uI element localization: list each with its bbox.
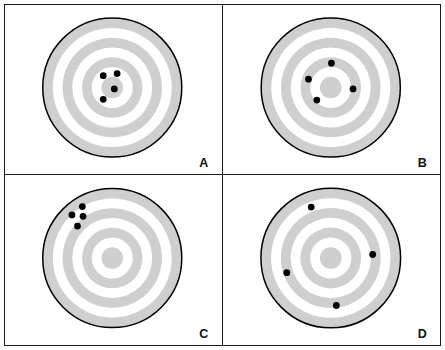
- shot-dot: [305, 76, 312, 83]
- shot-dot: [307, 204, 314, 211]
- panel-label-a: A: [199, 157, 208, 170]
- panel-grid: A B C D: [4, 4, 441, 346]
- shot-dot: [349, 86, 356, 93]
- shot-dot: [79, 203, 86, 210]
- ring-band: [101, 247, 123, 269]
- shot-dot: [283, 269, 290, 276]
- target-rings-b: [223, 5, 441, 174]
- shot-dot: [100, 72, 107, 79]
- target-d: [223, 175, 441, 345]
- shot-dot: [69, 212, 76, 219]
- panel-label-d: D: [418, 328, 427, 341]
- figure-root: A B C D: [0, 0, 445, 350]
- target-b: [223, 5, 441, 174]
- target-rings-a: [5, 5, 222, 174]
- panel-d: D: [223, 175, 441, 345]
- panel-c: C: [5, 175, 223, 345]
- shot-dot: [74, 223, 81, 230]
- target-a: [5, 5, 222, 174]
- shot-dot: [328, 60, 335, 67]
- panel-label-b: B: [418, 157, 427, 170]
- panel-b: B: [223, 5, 441, 175]
- shot-dot: [313, 97, 320, 104]
- ring-band: [319, 77, 341, 99]
- shot-dot: [114, 70, 121, 77]
- target-rings-c: [5, 175, 222, 345]
- target-c: [5, 175, 222, 345]
- shot-dot: [369, 251, 376, 258]
- panel-a: A: [5, 5, 223, 175]
- target-rings-d: [223, 175, 441, 345]
- shot-dot: [111, 86, 118, 93]
- panel-label-c: C: [199, 328, 208, 341]
- shot-dot: [100, 96, 107, 103]
- ring-band: [319, 247, 341, 269]
- shot-dot: [332, 302, 339, 309]
- shot-dot: [80, 213, 87, 220]
